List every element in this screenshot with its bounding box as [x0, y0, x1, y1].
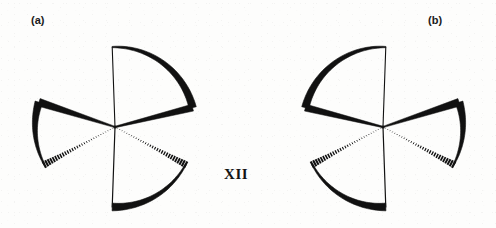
panel-label-b: (b) — [428, 14, 442, 26]
blade-left-blade — [32, 99, 115, 168]
scan-grain-overlay — [0, 0, 496, 228]
propeller-center-vertex — [113, 125, 116, 128]
blade-right-blade — [383, 99, 466, 168]
compound-number-label: XII — [224, 166, 248, 183]
panel-label-a: (a) — [31, 14, 44, 26]
blade-upper-right-blade — [112, 46, 196, 127]
blade-lower-left-blade — [311, 127, 386, 211]
propeller-figure-drawing — [0, 0, 496, 228]
propeller-center-vertex — [381, 125, 384, 128]
blade-lower-right-blade — [112, 127, 187, 211]
propeller-b — [302, 46, 466, 211]
blade-upper-left-blade — [302, 46, 386, 127]
propeller-a — [32, 46, 196, 211]
figure-canvas: (a) (b) XII — [0, 0, 496, 228]
